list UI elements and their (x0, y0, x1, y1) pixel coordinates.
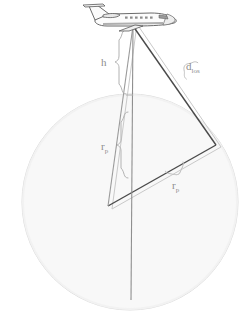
diagram-canvas: h rp rp dlos (0, 0, 252, 328)
los-geometry-figure: h rp rp dlos (0, 0, 252, 328)
aircraft-engine-nacelle (103, 14, 120, 18)
aircraft-horizontal-stabilizer (83, 4, 105, 7)
altitude-label: h (101, 56, 107, 68)
aircraft-icon (83, 4, 176, 31)
